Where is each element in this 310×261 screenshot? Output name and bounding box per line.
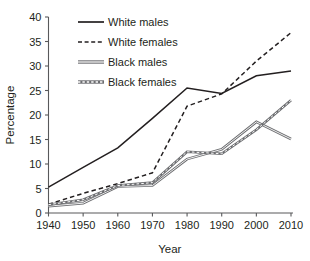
x-tick-label: 1970	[140, 219, 164, 231]
x-tick-label: 1950	[71, 219, 95, 231]
series-group	[49, 33, 292, 206]
series-line	[49, 33, 292, 205]
series-line	[49, 71, 292, 187]
y-tick-label: 10	[29, 158, 41, 170]
y-axis-title: Percentage	[4, 86, 16, 145]
series-white-females	[49, 33, 292, 205]
x-tick-label: 1960	[106, 219, 130, 231]
x-axis-title: Year	[158, 243, 181, 255]
legend-label: White males	[108, 16, 169, 28]
series-black-females	[49, 100, 292, 204]
legend-item: White males	[78, 16, 169, 28]
x-tick-label: 2010	[279, 219, 303, 231]
y-tick-label: 40	[29, 11, 41, 23]
series-line-outer	[49, 100, 292, 204]
legend-item: Black males	[78, 56, 168, 68]
y-tick-label: 15	[29, 134, 41, 146]
y-tick-label: 20	[29, 109, 41, 121]
chart-container: 0510152025303540 19401950196019701980199…	[0, 0, 310, 261]
x-tick-label: 1990	[209, 219, 233, 231]
legend-label: White females	[108, 36, 178, 48]
series-line-core	[49, 100, 292, 204]
legend-label: Black males	[108, 56, 168, 68]
x-tick-label: 1940	[36, 219, 60, 231]
legend-item: Black females	[78, 76, 177, 88]
legend-label: Black females	[108, 76, 177, 88]
y-tick-label: 35	[29, 36, 41, 48]
x-axis-tick-group: 19401950196019701980199020002010	[36, 213, 303, 231]
y-tick-label: 5	[35, 183, 41, 195]
series-white-males	[49, 71, 292, 187]
chart-legend: White malesWhite femalesBlack malesBlack…	[78, 16, 178, 88]
x-tick-label: 2000	[244, 219, 268, 231]
y-tick-label: 0	[35, 207, 41, 219]
x-tick-label: 1980	[175, 219, 199, 231]
y-tick-label: 30	[29, 60, 41, 72]
y-axis-tick-group: 0510152025303540	[29, 11, 48, 219]
line-chart: 0510152025303540 19401950196019701980199…	[0, 0, 310, 261]
y-tick-label: 25	[29, 85, 41, 97]
legend-item: White females	[78, 36, 178, 48]
